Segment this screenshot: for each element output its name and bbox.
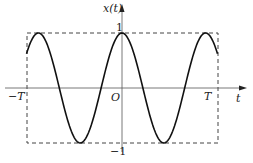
x-tick-T: T xyxy=(204,91,211,102)
y-axis-label: x(t) xyxy=(103,3,122,14)
y-tick-neg-1: −1 xyxy=(110,146,126,157)
x-axis-arrow-icon xyxy=(239,86,247,91)
x-axis-label: t xyxy=(236,93,240,104)
x-tick-neg-T: −T xyxy=(8,91,25,102)
origin-label: O xyxy=(111,92,120,103)
cosine-plot xyxy=(0,0,253,163)
y-tick-1: 1 xyxy=(116,22,123,33)
